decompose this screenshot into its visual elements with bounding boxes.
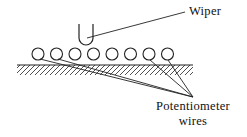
hatch-line <box>15 65 25 75</box>
hatch-line <box>185 65 195 75</box>
hatch-line <box>115 65 125 75</box>
hatch-line <box>195 65 205 75</box>
hatch-line <box>180 65 190 75</box>
wiper-leader-line <box>87 12 185 38</box>
hatch-line <box>25 65 35 75</box>
hatch-line <box>10 65 20 75</box>
wire-circle <box>162 48 174 60</box>
hatch-line <box>120 65 130 75</box>
wires-label-line1: Potentiometer <box>145 99 241 114</box>
wire-circle <box>88 48 100 60</box>
wire-circle <box>69 48 81 60</box>
wire-circle <box>125 48 137 60</box>
hatch-line <box>175 65 185 75</box>
hatch-line <box>155 65 165 75</box>
potentiometer-wires <box>32 48 174 60</box>
wire-circle <box>32 48 44 60</box>
hatch-line <box>45 65 55 75</box>
hatch-line <box>110 65 120 75</box>
hatch-line <box>50 65 60 75</box>
hatch-line <box>140 65 150 75</box>
hatch-line <box>150 65 160 75</box>
wire-circle <box>106 48 118 60</box>
hatch-line <box>40 65 50 75</box>
hatch-line <box>190 65 200 75</box>
hatch-line <box>145 65 155 75</box>
hatch-line <box>35 65 45 75</box>
wire-circle <box>51 48 63 60</box>
wires-label-line2: wires <box>145 114 241 129</box>
wire-circle <box>143 48 155 60</box>
wiper-contact <box>79 24 93 45</box>
hatch-line <box>20 65 30 75</box>
hatch-line <box>165 65 175 75</box>
hatch-line <box>30 65 40 75</box>
hatch-line <box>135 65 145 75</box>
hatch-line <box>125 65 135 75</box>
hatch-line <box>55 65 65 75</box>
potentiometer-wires-label: Potentiometer wires <box>145 99 241 129</box>
hatch-line <box>130 65 140 75</box>
wiper-label: Wiper <box>189 4 221 19</box>
base-hatching <box>10 65 205 75</box>
hatch-line <box>85 65 95 75</box>
